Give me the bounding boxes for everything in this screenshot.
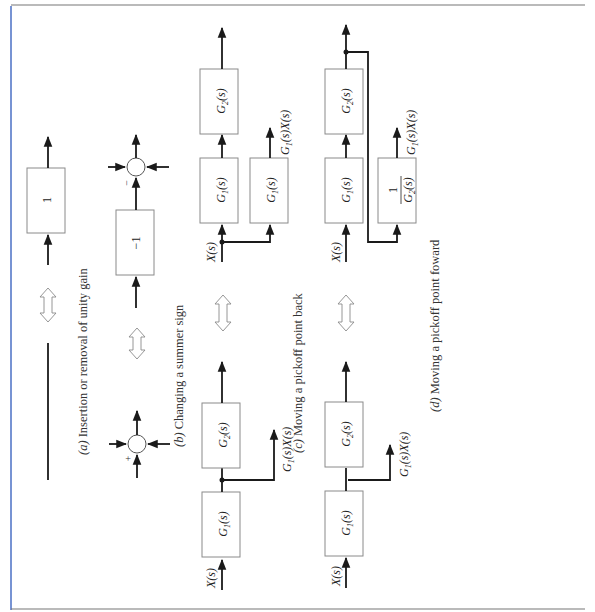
d-left-g2-label: G2(s)	[339, 421, 355, 446]
block-diagram-figure: 1 (a) Insertion or removal of unity gain…	[0, 0, 595, 612]
panel-a: 1 (a) Insertion or removal of unity gain	[27, 137, 90, 480]
c-equivalence-double-arrow-icon	[215, 295, 231, 331]
c-right-pickoff-branch	[222, 225, 270, 242]
d-inverse-numerator: 1	[386, 187, 400, 193]
panel-b: −1 − + (b) Changing a summer sign	[108, 135, 186, 478]
d-right-g1-label: G1(s)	[339, 177, 355, 202]
a-caption-text: Insertion or removal of unity gain	[76, 267, 90, 440]
c-left-g2-label: G2(s)	[216, 422, 232, 447]
d-right-input-label: X(s)	[329, 242, 343, 263]
c-left-input-label: X(s)	[204, 568, 218, 589]
d-inverse-denominator: G2(s)	[401, 177, 417, 202]
b-summer-left-sign: +	[125, 453, 131, 464]
b-equivalence-double-arrow-icon	[129, 328, 145, 359]
b-caption: (b) Changing a summer sign	[172, 304, 186, 447]
d-left-pickoff-output-label: G1(s)X(s)	[397, 432, 413, 477]
a-caption: (a) Insertion or removal of unity gain	[76, 267, 90, 455]
b-minus-one-label: −1	[129, 237, 143, 250]
d-caption: (d) Moving a pickoff point foward	[428, 239, 442, 412]
c-left-g1-label: G1(s)	[216, 511, 232, 536]
d-left-g1-label: G1(s)	[339, 510, 355, 535]
b-summer-left	[128, 435, 146, 453]
c-right-extra-g1-label: G1(s)	[264, 177, 280, 202]
d-right-pickoff-output-label: G1(s)X(s)	[404, 110, 420, 155]
c-caption-letter: (c)	[291, 439, 305, 453]
a-unity-block-label: 1	[40, 197, 54, 203]
panel-c: X(s) G1(s) G2(s) G1(s) G1(s)X(s) X(s) G1…	[200, 28, 305, 590]
d-equivalence-double-arrow-icon	[338, 295, 354, 331]
a-caption-letter: (a)	[76, 440, 90, 455]
b-caption-text: Changing a summer sign	[172, 304, 186, 433]
d-right-g2-label: G2(s)	[339, 88, 355, 113]
c-right-g1-label: G1(s)	[214, 177, 230, 202]
c-right-input-label: X(s)	[204, 242, 218, 263]
d-left-input-label: X(s)	[329, 566, 343, 587]
b-summer-right-sign: −	[121, 180, 132, 186]
d-caption-letter: (d)	[428, 397, 442, 412]
c-right-g2-label: G2(s)	[214, 88, 230, 113]
b-summer-right	[127, 158, 145, 176]
c-right-pickoff-output-label: G1(s)X(s)	[278, 110, 294, 155]
panel-d: X(s) G1(s) G2(s) 1 G2(s) G1(s)X(s) X(s) …	[325, 25, 442, 588]
a-equivalence-double-arrow-icon	[40, 288, 56, 322]
d-caption-text: Moving a pickoff point foward	[428, 239, 442, 397]
c-caption-text: Moving a pickoff point back	[291, 292, 305, 439]
b-caption-letter: (b)	[172, 432, 186, 447]
c-caption: (c) Moving a pickoff point back	[291, 292, 305, 453]
